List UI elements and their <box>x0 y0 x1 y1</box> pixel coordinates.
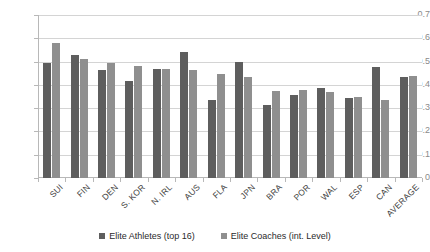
bar <box>107 63 115 178</box>
x-axis-tick-mark <box>38 178 39 182</box>
bar <box>409 76 417 178</box>
bar <box>326 92 334 178</box>
x-axis-label-text: FLA <box>211 182 230 201</box>
bar-group <box>175 15 202 178</box>
x-axis-tick-mark <box>93 178 94 182</box>
bar <box>272 91 280 178</box>
bar-group <box>230 15 257 178</box>
x-axis-label-text: JPN <box>238 182 257 201</box>
x-axis-tick-mark <box>65 178 66 182</box>
bar <box>354 97 362 179</box>
bar <box>299 90 307 178</box>
bar <box>71 55 79 178</box>
bar <box>217 74 225 178</box>
x-axis-label-text: AUS <box>182 182 202 202</box>
bar-group <box>93 15 120 178</box>
bar <box>189 70 197 178</box>
x-axis-label-text: S. KOR <box>119 182 147 210</box>
x-axis-label-text: ESP <box>347 182 367 202</box>
x-axis-tick-mark <box>120 178 121 182</box>
bar <box>162 69 170 178</box>
bar-group <box>148 15 175 178</box>
bar-group <box>120 15 147 178</box>
bar <box>153 69 161 178</box>
bar-group <box>394 15 421 178</box>
legend-item[interactable]: Elite Coaches (int. Level) <box>221 231 331 241</box>
x-axis-label-text: SUI <box>47 182 65 200</box>
bar <box>180 52 188 178</box>
x-axis-label-text: CAN <box>374 182 394 202</box>
bar-group <box>367 15 394 178</box>
bar <box>317 88 325 178</box>
bar <box>400 77 408 178</box>
bar <box>52 43 60 178</box>
x-axis-label-text: FIN <box>75 182 92 199</box>
x-axis-tick-mark <box>395 178 396 182</box>
bar-group <box>340 15 367 178</box>
bar <box>125 81 133 178</box>
bar <box>372 67 380 178</box>
x-axis-tick-mark <box>203 178 204 182</box>
x-axis-label-text: WAL <box>319 182 339 202</box>
x-axis-tick-mark <box>175 178 176 182</box>
x-axis-tick-mark <box>285 178 286 182</box>
bar-group <box>285 15 312 178</box>
bar-groups <box>38 15 422 178</box>
bar-chart: 0.70.60.50.40.30.20.10 SUIFINDENS. KORN.… <box>0 0 430 252</box>
bar <box>208 100 216 178</box>
legend-item[interactable]: Elite Athletes (top 16) <box>99 231 195 241</box>
x-axis-tick-mark <box>148 178 149 182</box>
x-axis-tick-mark <box>367 178 368 182</box>
x-axis-labels: SUIFINDENS. KORN. IRLAUSFLAJPNBRAPORWALE… <box>38 178 422 230</box>
bar <box>235 62 243 178</box>
bar <box>98 70 106 178</box>
x-axis-tick-mark <box>312 178 313 182</box>
x-axis-label-text: BRA <box>264 182 284 202</box>
x-axis-label-text: DEN <box>99 182 119 202</box>
bar-group <box>203 15 230 178</box>
bar <box>134 66 142 178</box>
bar <box>263 105 271 178</box>
x-axis-label-text: N. IRL <box>150 182 175 207</box>
bar <box>80 59 88 178</box>
legend-label: Elite Coaches (int. Level) <box>231 231 331 241</box>
bar <box>244 77 252 178</box>
legend-swatch-icon <box>99 233 105 239</box>
bar <box>345 98 353 178</box>
bar <box>43 63 51 178</box>
bar-group <box>38 15 65 178</box>
chart-legend: Elite Athletes (top 16)Elite Coaches (in… <box>0 231 430 241</box>
bar <box>381 100 389 178</box>
bar-group <box>65 15 92 178</box>
x-axis-tick-mark <box>422 178 423 182</box>
x-axis-tick-mark <box>257 178 258 182</box>
x-axis-tick-mark <box>230 178 231 182</box>
bar <box>290 95 298 178</box>
x-axis-label-text: POR <box>291 182 312 203</box>
x-axis-tick-mark <box>340 178 341 182</box>
legend-swatch-icon <box>221 233 227 239</box>
legend-label: Elite Athletes (top 16) <box>109 231 195 241</box>
bar-group <box>257 15 284 178</box>
bar-group <box>312 15 339 178</box>
